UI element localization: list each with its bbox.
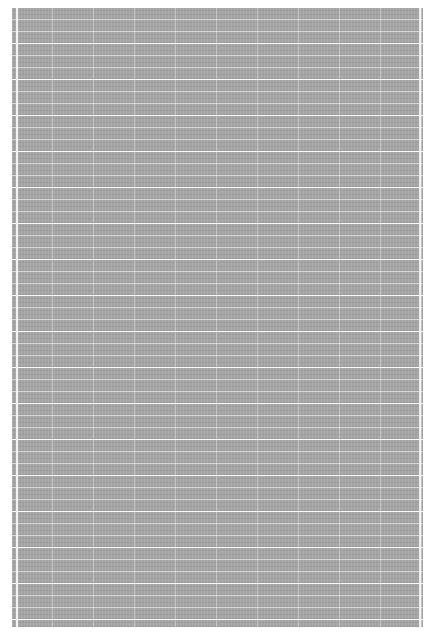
right-margin-line: [419, 8, 421, 627]
vertical-grid-lines: [12, 8, 423, 627]
document-page: [12, 8, 423, 627]
left-margin-line: [16, 8, 18, 627]
